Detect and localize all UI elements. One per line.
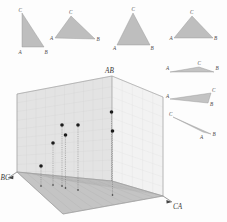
wall-left — [17, 76, 112, 181]
figure-canvas: C A B C A B C A B C A B A — [0, 0, 227, 222]
axis-label-BC: BC — [1, 174, 10, 182]
scatter-3d-plot: AB BC CA — [0, 0, 227, 222]
axis-label-AB: AB — [104, 67, 114, 75]
axis-label-CA: CA — [173, 203, 183, 211]
